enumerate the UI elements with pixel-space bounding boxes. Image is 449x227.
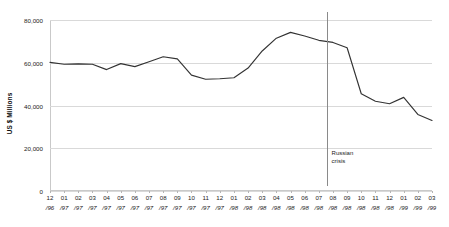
x-tick-year: /98 [244,203,252,213]
x-axis-tick-label: 11/97 [201,193,209,212]
x-tick-year: /99 [399,203,407,213]
x-tick-year: /97 [88,203,96,213]
x-axis-tick-label: 07/98 [315,193,323,212]
x-tick-year: /97 [173,203,181,213]
x-tick-year: /97 [74,203,82,213]
x-axis-tick-label: 02/98 [244,193,252,212]
x-tick-year: /98 [385,203,393,213]
x-axis-tick-label: 05/97 [116,193,124,212]
x-tick-month: 12 [216,193,224,203]
x-axis-tick-label: 09/97 [173,193,181,212]
x-axis-tick-label: 12/96 [46,193,54,212]
x-tick-year: /97 [201,203,209,213]
x-axis-tick-label: 01/97 [60,193,68,212]
x-tick-year: /98 [258,203,266,213]
x-axis-tick-label: 03/98 [258,193,266,212]
x-axis-tick-label: 08/97 [159,193,167,212]
annotation-line-1: Russian [332,149,354,157]
x-tick-month: 12 [46,193,54,203]
x-axis-tick-label: 12/97 [216,193,224,212]
x-tick-month: 06 [131,193,139,203]
x-tick-month: 02 [244,193,252,203]
x-tick-month: 04 [102,193,110,203]
x-tick-month: 03 [88,193,96,203]
x-tick-month: 01 [230,193,238,203]
y-axis-tick-label: 20,000 [24,145,43,152]
x-tick-month: 03 [428,193,436,203]
annotation-line-2: crisis [332,157,354,165]
x-tick-year: /97 [216,203,224,213]
x-tick-month: 09 [343,193,351,203]
x-tick-month: 02 [414,193,422,203]
x-axis-tick-label: 03/99 [428,193,436,212]
x-axis-tick-label: 07/97 [145,193,153,212]
x-axis-tick-label: 01/98 [230,193,238,212]
x-tick-month: 06 [300,193,308,203]
x-tick-month: 01 [399,193,407,203]
x-tick-year: /98 [329,203,337,213]
x-axis-tick-label: 04/97 [102,193,110,212]
x-tick-year: /98 [272,203,280,213]
x-tick-month: 03 [258,193,266,203]
event-marker-line-russian-crisis [327,12,328,186]
x-axis-tick-label: 06/98 [300,193,308,212]
x-axis-tick-label: 05/98 [286,193,294,212]
x-tick-month: 10 [187,193,195,203]
x-tick-month: 05 [286,193,294,203]
x-tick-month: 08 [159,193,167,203]
x-tick-month: 10 [357,193,365,203]
y-axis-tick-label: 60,000 [24,59,43,66]
x-axis-tick-labels: 12/9601/9702/9703/9704/9705/9706/9707/97… [50,193,432,223]
x-tick-month: 11 [201,193,209,203]
x-axis-tick-label: 02/99 [414,193,422,212]
x-tick-month: 02 [74,193,82,203]
line-chart: US $ Millions 020,00040,00060,00080,000 … [0,0,449,227]
x-tick-month: 09 [173,193,181,203]
x-tick-year: /99 [414,203,422,213]
x-axis-tick-label: 11/98 [371,193,379,212]
x-axis-tick-label: 06/97 [131,193,139,212]
x-axis-tick-label: 10/98 [357,193,365,212]
x-axis-tick-label: 04/98 [272,193,280,212]
x-tick-year: /97 [60,203,68,213]
y-axis-tick-label: 40,000 [24,102,43,109]
x-tick-year: /96 [46,203,54,213]
x-tick-year: /97 [145,203,153,213]
x-axis-tick-label: 12/98 [385,193,393,212]
event-marker-label-russian-crisis: Russiancrisis [332,149,354,165]
y-axis-tick-label: 80,000 [24,17,43,24]
x-tick-year: /97 [159,203,167,213]
x-axis-tick-label: 08/98 [329,193,337,212]
x-tick-year: /97 [187,203,195,213]
x-axis-tick-label: 10/97 [187,193,195,212]
x-tick-year: /99 [428,203,436,213]
plot-area: Russiancrisis [50,20,432,191]
y-axis-tick-labels: 020,00040,00060,00080,000 [0,0,47,227]
x-tick-year: /98 [315,203,323,213]
x-tick-year: /98 [230,203,238,213]
x-tick-year: /98 [286,203,294,213]
x-tick-month: 11 [371,193,379,203]
x-tick-month: 05 [116,193,124,203]
y-axis-tick-label: 0 [40,188,43,195]
x-tick-month: 08 [329,193,337,203]
x-tick-month: 01 [60,193,68,203]
x-tick-year: /98 [371,203,379,213]
x-tick-month: 07 [315,193,323,203]
x-tick-month: 04 [272,193,280,203]
x-tick-year: /98 [343,203,351,213]
x-tick-year: /97 [131,203,139,213]
x-axis-tick-label: 03/97 [88,193,96,212]
x-tick-year: /98 [357,203,365,213]
x-tick-month: 07 [145,193,153,203]
x-tick-year: /98 [300,203,308,213]
x-axis-tick-label: 02/97 [74,193,82,212]
x-tick-month: 12 [385,193,393,203]
x-axis-tick-label: 01/99 [399,193,407,212]
x-tick-year: /97 [102,203,110,213]
data-series-line [50,20,432,191]
x-tick-year: /97 [116,203,124,213]
x-axis-tick-label: 09/98 [343,193,351,212]
